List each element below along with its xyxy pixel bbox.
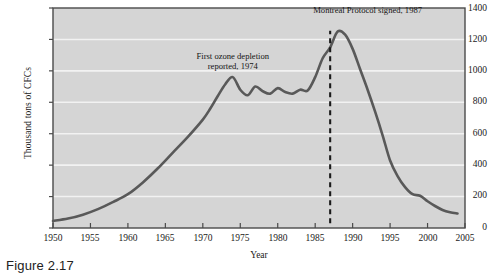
annotation-first-ozone-depletion-line1: First ozone depletion <box>197 51 270 61</box>
figure-caption: Figure 2.17 <box>6 258 74 273</box>
annotation-montreal-protocol: Montreal Protocol signed, 1987 <box>313 5 423 15</box>
plot-background <box>53 8 465 228</box>
annotation-first-ozone-depletion-line2: reported, 1974 <box>208 61 259 71</box>
